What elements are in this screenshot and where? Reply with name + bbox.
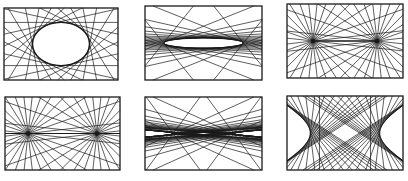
tangent-line xyxy=(287,96,379,161)
panel-hyperbola-envelope: hyperbola-envelope xyxy=(287,96,403,170)
panel-two-foci-full-line: two-foci-full-line xyxy=(5,97,120,170)
line-arrangement-graphic xyxy=(145,6,262,80)
tangent-line xyxy=(311,96,403,161)
tangent-line xyxy=(311,105,403,170)
panel-two-foci-segment: two-foci-segment xyxy=(287,4,403,78)
line-arrangement-graphic xyxy=(145,97,262,170)
line-arrangement-graphic xyxy=(5,97,120,170)
tangent-line xyxy=(318,4,403,57)
tangent-line xyxy=(4,8,82,46)
panel-flat-ellipse-envelope: flat-ellipse-envelope xyxy=(145,6,262,80)
panel-ellipse-envelope: ellipse-envelope xyxy=(4,8,118,80)
tangent-line xyxy=(287,96,374,161)
rectangle-frame xyxy=(287,96,403,170)
tangent-line xyxy=(347,96,403,168)
tangent-line xyxy=(153,6,262,50)
tangent-line xyxy=(145,6,254,50)
tangent-line xyxy=(40,42,118,80)
tangent-line xyxy=(287,105,379,170)
tangent-line xyxy=(287,96,343,168)
rectangle-frame xyxy=(4,8,118,80)
tangent-line xyxy=(316,96,403,161)
line-arrangement-graphic xyxy=(4,8,118,80)
rectangle-frame xyxy=(145,97,262,170)
line-arrangement-graphic xyxy=(287,96,403,170)
panel-flat-hyperbola-envelope: flat-hyperbola-envelope xyxy=(145,97,262,170)
tangent-line xyxy=(318,25,403,78)
line-arrangement-graphic xyxy=(287,4,403,78)
